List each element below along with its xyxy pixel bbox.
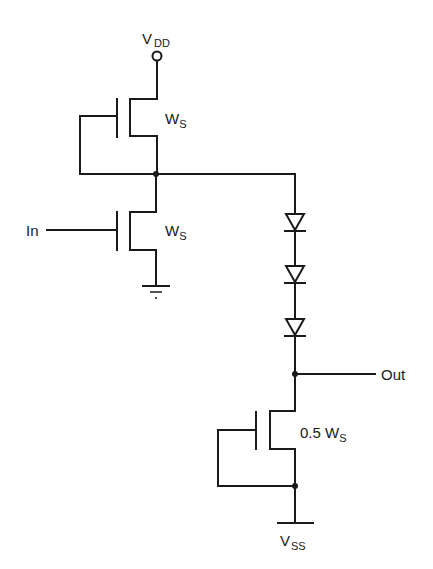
bottom-transistor-width-label: 0.5 WS: [300, 424, 347, 444]
vdd-label: VDD: [142, 30, 170, 49]
diode-stack: [285, 214, 305, 374]
vss-label: VSS: [280, 532, 306, 552]
input-transistor: In WS: [26, 174, 187, 286]
ground-icon: [143, 286, 169, 298]
bottom-current-source-transistor: 0.5 WS: [218, 374, 347, 486]
top-load-transistor: WS: [80, 99, 187, 174]
vss-terminal: VSS: [278, 486, 313, 552]
level-shift-wire: [156, 174, 295, 214]
diode-icon: [285, 319, 305, 336]
circuit-schematic: VDD WS In WS: [0, 0, 433, 569]
diode-icon: [285, 214, 305, 231]
diode-icon: [285, 266, 305, 283]
output-label: Out: [381, 366, 406, 383]
vdd-terminal: VDD: [142, 30, 170, 99]
input-label: In: [26, 222, 39, 239]
top-transistor-width-label: WS: [165, 110, 187, 130]
input-transistor-width-label: WS: [165, 222, 187, 242]
vdd-terminal-circle: [153, 52, 162, 61]
